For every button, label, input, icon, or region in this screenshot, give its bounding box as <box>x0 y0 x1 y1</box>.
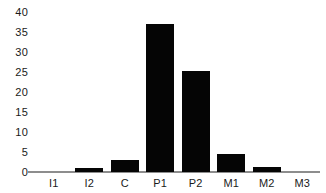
y-tick-label: 10 <box>15 127 28 138</box>
x-tick-label: P1 <box>143 177 179 189</box>
bars-layer <box>36 0 320 172</box>
y-tick-label: 35 <box>15 27 28 38</box>
x-tick-label: M2 <box>249 177 285 189</box>
bar-slot <box>285 0 321 172</box>
bar <box>111 160 139 172</box>
y-tick-label: 30 <box>15 47 28 58</box>
x-tick-label: I1 <box>36 177 72 189</box>
y-tick-label: 20 <box>15 87 28 98</box>
x-tick-label: C <box>107 177 143 189</box>
bar-slot <box>214 0 250 172</box>
bar-slot <box>36 0 72 172</box>
bar <box>217 154 245 172</box>
plot-area: I1 I2 C P1 P2 M1 M2 M3 <box>36 0 320 193</box>
bar <box>75 168 103 172</box>
x-tick-label: I2 <box>72 177 108 189</box>
bar-slot <box>178 0 214 172</box>
x-tick-label: M1 <box>214 177 250 189</box>
bar-chart: 40 35 30 25 20 15 10 5 0 <box>0 0 326 193</box>
bar-slot <box>72 0 108 172</box>
x-tick-label: M3 <box>285 177 321 189</box>
bar <box>253 167 281 172</box>
bar <box>182 71 210 172</box>
bar-slot <box>249 0 285 172</box>
y-tick-label: 15 <box>15 107 28 118</box>
bar-slot <box>107 0 143 172</box>
x-axis: I1 I2 C P1 P2 M1 M2 M3 <box>36 174 320 193</box>
bar <box>146 24 174 172</box>
y-tick-label: 5 <box>22 147 28 158</box>
bar-slot <box>143 0 179 172</box>
y-axis: 40 35 30 25 20 15 10 5 0 <box>0 0 34 193</box>
y-tick-label: 40 <box>15 7 28 18</box>
y-tick-label: 25 <box>15 67 28 78</box>
x-tick-label: P2 <box>178 177 214 189</box>
